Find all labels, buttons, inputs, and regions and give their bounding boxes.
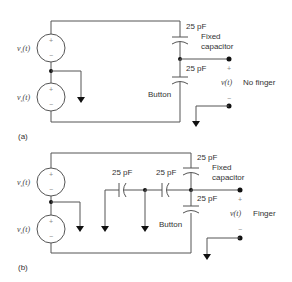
- panel-label: (a): [18, 132, 28, 141]
- bottom-wire: [51, 82, 180, 122]
- cap-value-label: 25 pF: [197, 194, 218, 203]
- voltage-source-bottom: + −: [37, 83, 65, 111]
- fixed-label: Fixed: [201, 32, 221, 41]
- fixed-label: Fixed: [212, 163, 232, 172]
- fixed-capacitor: [183, 168, 199, 190]
- svg-text:+: +: [49, 171, 53, 178]
- source-label: vs(t): [17, 93, 30, 103]
- cap-value-label: 25 pF: [186, 64, 207, 73]
- cap-value-label: 25 pF: [156, 168, 177, 177]
- fixed-capacitor: [172, 37, 188, 59]
- cap-value-label: 25 pF: [197, 153, 218, 162]
- svg-text:−: −: [49, 52, 53, 59]
- output-voltage-label: v(t): [221, 78, 232, 87]
- ground-arrow-icon: [101, 226, 109, 232]
- svg-text:+: +: [49, 37, 53, 44]
- cap-value-label: 25 pF: [186, 22, 207, 31]
- button-label: Button: [159, 220, 182, 229]
- cap-value-label: 25 pF: [112, 168, 133, 177]
- button-label: Button: [148, 90, 171, 99]
- output-voltage-label: v(t): [230, 209, 241, 218]
- svg-text:−: −: [49, 186, 53, 193]
- panel-label: (b): [18, 263, 28, 272]
- capacitor-label: capacitor: [201, 42, 234, 51]
- finger-state-label: Finger: [253, 209, 276, 218]
- svg-text:+: +: [49, 86, 53, 93]
- bottom-wire: [51, 213, 191, 253]
- top-wire: [51, 21, 180, 37]
- svg-text:−: −: [49, 233, 53, 240]
- source-label: vs(t): [17, 178, 30, 188]
- capacitor-label: capacitor: [212, 173, 245, 182]
- output-terminal-plus: [238, 188, 243, 193]
- svg-text:−: −: [238, 226, 242, 233]
- panel-a: + − vs(t) + − vs(t) 25 pF Fixed capacito…: [17, 21, 276, 141]
- ground-arrow-icon: [192, 121, 200, 127]
- finger-wire: [105, 190, 119, 226]
- source-label: vs(t): [17, 44, 30, 54]
- svg-text:−: −: [227, 95, 231, 102]
- source-label: vs(t): [17, 225, 30, 235]
- capacitive-touch-circuit-figure: + − vs(t) + − vs(t) 25 pF Fixed capacito…: [0, 0, 292, 282]
- output-ground-wire: [196, 106, 229, 121]
- voltage-source-bottom: + −: [37, 215, 65, 243]
- finger-state-label: No finger: [243, 78, 276, 87]
- ground-arrow-icon: [77, 97, 85, 103]
- top-wire: [51, 153, 191, 168]
- voltage-source-top: + −: [37, 168, 65, 196]
- svg-text:−: −: [49, 101, 53, 108]
- voltage-source-top: + −: [37, 34, 65, 62]
- svg-text:+: +: [49, 218, 53, 225]
- output-terminal-plus: [227, 57, 232, 62]
- ground-arrow-icon: [141, 226, 149, 232]
- ground-arrow-icon: [76, 226, 84, 232]
- svg-text:+: +: [227, 65, 231, 72]
- ground-arrow-icon: [203, 254, 211, 260]
- output-ground-wire: [207, 238, 240, 254]
- svg-text:+: +: [238, 196, 242, 203]
- panel-b: + − vs(t) + − vs(t) 25 pF 25 pF: [17, 153, 276, 272]
